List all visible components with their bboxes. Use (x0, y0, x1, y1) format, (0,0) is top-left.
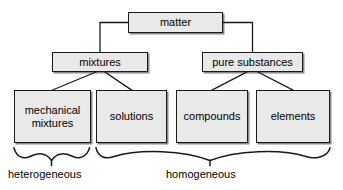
edge-mixtures-to-mechanical-mixtures (53, 72, 97, 90)
group-label-homogeneous: homogeneous (166, 168, 236, 180)
edge-pure-substances-to-elements (258, 72, 293, 90)
node-mixtures-label: mixtures (77, 56, 123, 68)
edge-matter-to-pure-substances (223, 23, 253, 53)
brace-homogeneous (96, 148, 330, 161)
node-compounds-label: compounds (182, 110, 243, 122)
node-elements-label: elements (269, 110, 318, 122)
node-matter[interactable]: matter (128, 12, 223, 33)
matter-classification-diagram: matter mixtures pure substances mechanic… (0, 0, 343, 190)
node-solutions[interactable]: solutions (96, 90, 167, 143)
node-pure-substances-label: pure substances (210, 56, 295, 68)
node-compounds[interactable]: compounds (176, 90, 248, 143)
node-mixtures[interactable]: mixtures (52, 52, 148, 72)
group-label-heterogeneous: heterogeneous (8, 168, 81, 180)
node-pure-substances[interactable]: pure substances (202, 52, 303, 72)
node-mechanical-mixtures-label: mechanical mixtures (23, 104, 83, 129)
node-matter-label: matter (158, 16, 193, 28)
node-elements[interactable]: elements (256, 90, 330, 143)
edge-matter-to-mixtures (100, 23, 128, 53)
node-solutions-label: solutions (108, 110, 155, 122)
node-mechanical-mixtures[interactable]: mechanical mixtures (14, 90, 91, 143)
edge-mixtures-to-solutions (105, 72, 132, 90)
edge-pure-substances-to-compounds (212, 72, 247, 90)
brace-heterogeneous (14, 148, 90, 161)
